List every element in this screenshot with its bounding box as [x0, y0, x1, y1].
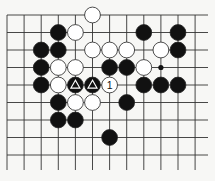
black-stone: [33, 77, 49, 93]
black-stone: [68, 112, 84, 128]
black-stone: [85, 77, 101, 93]
black-stone: [50, 95, 66, 111]
white-stone: [68, 25, 84, 41]
go-board-diagram: 1: [0, 0, 215, 181]
black-stone: [50, 42, 66, 58]
white-stone: 1: [102, 77, 118, 93]
black-stone: [68, 77, 84, 93]
white-stone: [50, 77, 66, 93]
black-stone: [170, 77, 186, 93]
black-stone: [102, 60, 118, 76]
black-stone: [136, 25, 152, 41]
black-stone: [102, 130, 118, 146]
black-stone: [50, 25, 66, 41]
black-stone: [170, 42, 186, 58]
black-stone: [119, 60, 135, 76]
move-number-label: 1: [107, 79, 113, 91]
white-stone: [119, 42, 135, 58]
black-stone: [153, 77, 169, 93]
white-stone: [85, 95, 101, 111]
point-marks: [158, 65, 163, 70]
white-stone: [68, 60, 84, 76]
white-stone: [85, 7, 101, 23]
black-stone: [136, 77, 152, 93]
white-stone: [50, 60, 66, 76]
point-dot-mark: [158, 65, 163, 70]
black-stone: [33, 60, 49, 76]
white-stone: [102, 42, 118, 58]
white-stone: [85, 42, 101, 58]
black-stone: [170, 25, 186, 41]
black-stone: [50, 112, 66, 128]
white-stone: [136, 60, 152, 76]
white-stone: [153, 42, 169, 58]
black-stone: [119, 95, 135, 111]
white-stone: [68, 95, 84, 111]
black-stone: [33, 42, 49, 58]
